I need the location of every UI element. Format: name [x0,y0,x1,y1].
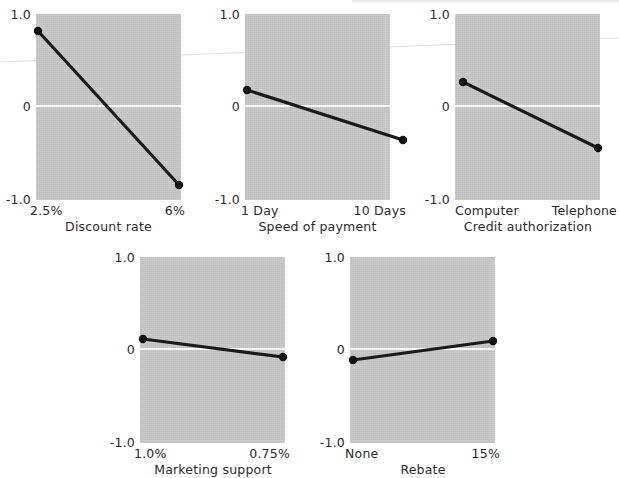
ytick-rebate-zero: 0 [314,342,345,357]
axis-title-rebate: Rebate [348,462,498,477]
small-multiples-figure: 1.0 0 -1.0 2.5% 6% Discount rate 1.0 0 -… [0,0,619,478]
series-rebate [0,0,619,478]
ytick-rebate-top: 1.0 [314,250,345,265]
ytick-rebate-bottom: -1.0 [314,435,345,450]
xtick-rebate-right: 15% [455,446,500,461]
xtick-rebate-left: None [345,446,378,461]
